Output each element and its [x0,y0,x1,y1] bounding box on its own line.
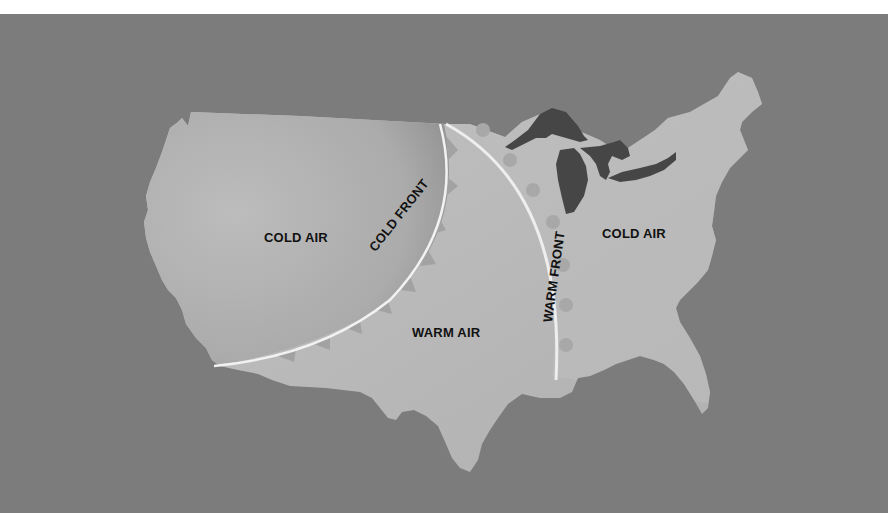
us-weather-map [0,0,888,513]
semicircle-icon [559,298,573,312]
semicircle-icon [526,183,540,197]
warm-air-label: WARM AIR [412,325,480,340]
cold-air-west-label: COLD AIR [264,230,328,245]
semicircle-icon [546,215,560,229]
semicircle-icon [559,338,573,352]
semicircle-icon [476,123,490,137]
cold-air-east-label: COLD AIR [602,226,666,241]
semicircle-icon [503,153,517,167]
